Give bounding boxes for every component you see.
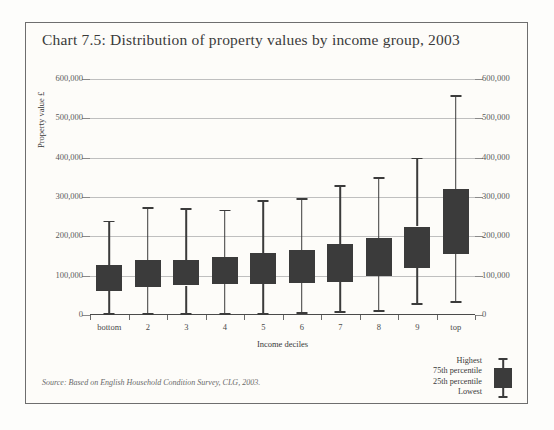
whisker-cap-highest — [142, 207, 153, 209]
y-axis-tick-label: 200,000 — [482, 231, 510, 240]
y-axis-tick — [82, 276, 90, 277]
x-axis-tick-label: 8 — [377, 322, 381, 332]
y-axis-tick-label: 200,000 — [55, 231, 83, 240]
y-axis-tick-label: 600,000 — [55, 74, 83, 83]
y-axis-tick-label: 600,000 — [482, 74, 510, 83]
whisker-lower — [455, 254, 457, 301]
x-axis-tick — [360, 315, 361, 320]
y-axis-tick-label: 400,000 — [55, 153, 83, 162]
whisker-upper — [416, 158, 418, 227]
whisker-cap-lowest — [181, 313, 192, 315]
y-axis-tick-label: 500,000 — [55, 113, 83, 122]
x-axis-tick-label: 6 — [300, 322, 304, 332]
y-axis-tick-label: 0 — [79, 310, 83, 319]
x-axis-tick — [206, 315, 207, 320]
y-axis-tick — [82, 118, 90, 119]
x-axis-tick — [437, 315, 438, 320]
whisker-cap-highest — [181, 208, 192, 210]
y-axis-tick-label: 300,000 — [482, 192, 510, 201]
whisker-lower — [262, 284, 264, 314]
legend-boxplot-icon — [494, 356, 512, 400]
boxplot-group — [366, 79, 392, 315]
y-axis-tick-label: 0 — [482, 310, 486, 319]
y-axis-label: Property value £ — [36, 92, 46, 148]
x-axis-tick — [321, 315, 322, 320]
whisker-cap-lowest — [219, 313, 230, 315]
whisker-cap-lowest — [412, 303, 423, 305]
legend-item: Highest — [433, 356, 482, 366]
whisker-upper — [455, 95, 457, 189]
x-axis-tick — [167, 315, 168, 320]
whisker-cap-highest — [373, 177, 384, 179]
box-interquartile-range — [173, 260, 199, 286]
y-axis-tick-label: 300,000 — [55, 192, 83, 201]
x-axis-tick-label: 5 — [261, 322, 265, 332]
whisker-cap-highest — [412, 158, 423, 160]
x-axis-tick-label: 4 — [223, 322, 227, 332]
x-axis-tick-label: 2 — [146, 322, 150, 332]
boxplot-group — [327, 79, 353, 315]
whisker-cap-lowest — [296, 312, 307, 314]
y-axis-tick-label: 400,000 — [482, 153, 510, 162]
whisker-upper — [108, 221, 110, 265]
whisker-lower — [185, 286, 187, 314]
box-interquartile-range — [366, 238, 392, 276]
boxplot-group — [289, 79, 315, 315]
y-axis-tick — [82, 79, 90, 80]
whisker-cap-lowest — [142, 313, 153, 315]
whisker-cap-highest — [258, 200, 269, 202]
whisker-lower — [147, 287, 149, 313]
y-axis-tick-label: 100,000 — [482, 271, 510, 280]
y-axis-tick-label: 100,000 — [55, 271, 83, 280]
whisker-upper — [301, 198, 303, 250]
whisker-upper — [185, 208, 187, 260]
whisker-cap-highest — [104, 221, 115, 223]
box-interquartile-range — [289, 250, 315, 283]
x-axis-tick — [283, 315, 284, 320]
source-note: Source: Based on English Household Condi… — [42, 378, 260, 387]
legend-item: 25th percentile — [433, 377, 482, 387]
box-interquartile-range — [327, 244, 353, 281]
boxplot-group — [404, 79, 430, 315]
boxplot-group — [212, 79, 238, 315]
whisker-cap-lowest — [335, 311, 346, 313]
x-axis-tick-label: bottom — [97, 322, 121, 332]
whisker-cap-lowest — [104, 313, 115, 315]
x-axis-label: Income deciles — [90, 339, 475, 349]
y-axis-tick — [82, 315, 90, 316]
whisker-cap-lowest — [373, 310, 384, 312]
box-interquartile-range — [443, 189, 469, 254]
whisker-lower — [339, 282, 341, 312]
y-axis-tick-label: 500,000 — [482, 113, 510, 122]
x-axis-tick — [129, 315, 130, 320]
legend-label-list: Highest75th percentile25th percentileLow… — [433, 356, 482, 398]
y-axis-tick — [82, 158, 90, 159]
boxplot-group — [250, 79, 276, 315]
x-axis-tick — [244, 315, 245, 320]
whisker-upper — [339, 185, 341, 244]
x-axis-tick-label: 9 — [415, 322, 419, 332]
box-interquartile-range — [250, 253, 276, 284]
whisker-lower — [108, 291, 110, 313]
plot-area: 00100,000100,000200,000200,000300,000300… — [90, 79, 475, 315]
box-interquartile-range — [212, 257, 238, 285]
whisker-cap-highest — [219, 210, 230, 212]
boxplot-group — [135, 79, 161, 315]
whisker-cap-highest — [335, 185, 346, 187]
box-interquartile-range — [135, 260, 161, 287]
whisker-cap-highest — [296, 198, 307, 200]
boxplot-group — [96, 79, 122, 315]
chart-legend: Highest75th percentile25th percentileLow… — [398, 356, 516, 400]
box-interquartile-range — [404, 227, 430, 268]
whisker-cap-lowest — [258, 313, 269, 315]
whisker-upper — [147, 207, 149, 260]
legend-item: 75th percentile — [433, 366, 482, 376]
whisker-lower — [224, 284, 226, 313]
chart-page: Chart 7.5: Distribution of property valu… — [0, 0, 554, 430]
y-axis-tick — [82, 236, 90, 237]
whisker-upper — [262, 200, 264, 253]
x-axis-tick-label: 3 — [184, 322, 188, 332]
x-axis-tick — [475, 315, 476, 320]
whisker-lower — [416, 268, 418, 303]
whisker-cap-lowest — [450, 301, 461, 303]
